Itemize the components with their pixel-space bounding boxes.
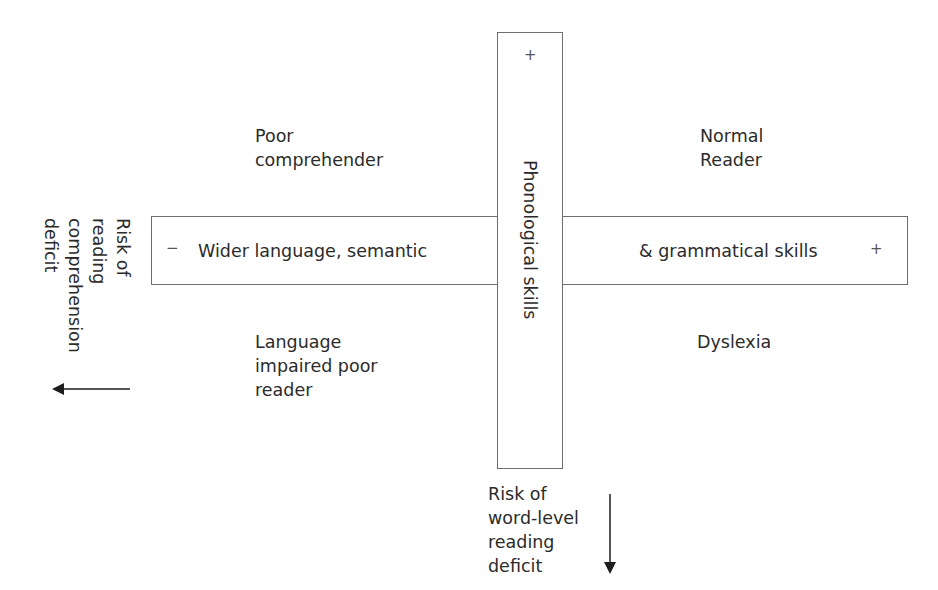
risk-bottom-line: Risk of [488, 482, 579, 506]
risk-bottom-line: reading [488, 530, 579, 554]
quadrant-bottom-left: Language impaired poor reader [255, 330, 378, 402]
plus-sign-top: + [524, 46, 537, 64]
risk-bottom-line: word-level [488, 506, 579, 530]
quadrant-top-right-line: Normal [700, 124, 763, 148]
left-arrow-shaft [62, 388, 130, 390]
quadrant-top-left-line: comprehender [255, 148, 383, 172]
risk-left-line: deficit [39, 218, 63, 353]
horizontal-axis-label-left: Wider language, semantic [198, 239, 427, 263]
quadrant-top-right-line: Reader [700, 148, 763, 172]
horizontal-axis-label-right: & grammatical skills [639, 239, 818, 263]
quadrant-bottom-left-line: reader [255, 378, 378, 402]
left-arrow-icon [52, 383, 64, 395]
plus-sign-right: + [870, 240, 883, 258]
quadrant-top-left-line: Poor [255, 124, 383, 148]
risk-left-line: Risk of [111, 218, 135, 353]
risk-reading-comprehension-label: Risk of reading comprehension deficit [39, 218, 135, 353]
down-arrow-icon [604, 562, 616, 574]
risk-word-level-label: Risk of word-level reading deficit [488, 482, 579, 578]
quadrant-bottom-left-line: impaired poor [255, 354, 378, 378]
risk-bottom-line: deficit [488, 554, 579, 578]
risk-left-line: comprehension [63, 218, 87, 353]
risk-left-line: reading [87, 218, 111, 353]
down-arrow-shaft [609, 494, 611, 564]
quadrant-top-right: Normal Reader [700, 124, 763, 172]
quadrant-bottom-left-line: Language [255, 330, 378, 354]
quadrant-bottom-right: Dyslexia [697, 330, 771, 354]
quadrant-top-left: Poor comprehender [255, 124, 383, 172]
vertical-axis-label: Phonological skills [518, 160, 542, 319]
minus-sign: − [166, 239, 179, 257]
quadrant-bottom-right-line: Dyslexia [697, 330, 771, 354]
